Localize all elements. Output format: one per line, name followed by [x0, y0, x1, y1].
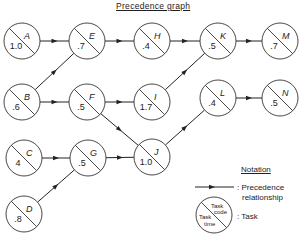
arrow-icon — [246, 96, 252, 100]
legend-precedence-arrow-icon — [195, 185, 234, 189]
task-node-J: J1.0 — [134, 139, 170, 175]
arrow-icon — [52, 39, 58, 43]
edge-A-E — [40, 39, 69, 43]
edge-B-E — [35, 53, 74, 89]
task-node-G: G.5 — [70, 140, 106, 176]
task-time: 4 — [15, 158, 20, 168]
task-time: .4 — [208, 98, 216, 108]
edge-C-G — [42, 156, 70, 160]
task-node-A: A1.0 — [4, 23, 40, 59]
arrow-icon — [182, 39, 188, 43]
legend-precedence-line2: relationship — [237, 193, 284, 203]
task-node-H: H.4 — [134, 23, 170, 59]
svg-text:code: code — [214, 209, 228, 215]
edge-F-I — [105, 100, 134, 104]
task-code: H — [154, 31, 161, 41]
task-node-K: K.5 — [200, 23, 236, 59]
task-time: .7 — [77, 41, 85, 51]
task-time: 1.0 — [10, 41, 23, 51]
task-code: F — [89, 92, 95, 102]
task-code: E — [89, 31, 96, 41]
edge-K-M — [236, 39, 262, 43]
edge-J-L — [165, 110, 204, 145]
graph-title: Precedence graph — [116, 1, 190, 11]
task-code: C — [26, 148, 33, 158]
task-time: .4 — [142, 41, 150, 51]
task-time: .5 — [208, 41, 216, 51]
arrow-icon — [117, 39, 123, 43]
arrow-icon — [52, 100, 58, 104]
arrow-icon — [117, 155, 123, 159]
svg-text:Task: Task — [199, 214, 212, 220]
task-time: .8 — [14, 214, 22, 224]
edges-layer — [35, 39, 262, 202]
task-time: .6 — [12, 102, 20, 112]
task-code: G — [90, 148, 97, 158]
legend-precedence-line1: : Precedence — [237, 183, 284, 193]
task-node-L: L.4 — [200, 80, 236, 116]
edge-H-K — [170, 39, 200, 43]
edge-E-H — [105, 39, 134, 43]
edge-L-N — [236, 96, 262, 100]
task-time: .7 — [270, 41, 278, 51]
task-time: 1.7 — [140, 102, 153, 112]
task-node-E: E.7 — [69, 23, 105, 59]
task-node-M: M.7 — [262, 23, 298, 59]
edge-F-J — [101, 114, 139, 146]
edge-G-J — [106, 155, 134, 159]
task-node-I: I1.7 — [134, 84, 170, 120]
task-code: K — [220, 31, 227, 41]
arrow-icon — [117, 100, 123, 104]
edge-B-F — [40, 100, 69, 104]
task-node-C: C4 — [6, 140, 42, 176]
arrow-icon — [246, 39, 252, 43]
task-time: .5 — [77, 102, 85, 112]
task-node-F: F.5 — [69, 84, 105, 120]
svg-text:time: time — [204, 221, 216, 227]
edge-D-G — [38, 170, 75, 202]
task-time: .5 — [78, 158, 86, 168]
task-node-N: N.5 — [262, 80, 298, 116]
task-time: 1.0 — [140, 157, 153, 167]
task-node-B: B.6 — [4, 84, 40, 120]
task-code: M — [282, 31, 290, 41]
task-code: A — [23, 31, 30, 41]
task-node-D: D.8 — [6, 196, 42, 232]
task-code: J — [153, 147, 159, 157]
task-code: N — [282, 88, 289, 98]
legend-precedence-label: : Precedence relationship — [237, 183, 284, 203]
legend-task-node-icon: Task code Task time — [196, 197, 232, 233]
task-code: L — [220, 88, 225, 98]
edge-I-K — [165, 53, 205, 90]
task-time: .5 — [270, 98, 278, 108]
task-code: B — [24, 92, 30, 102]
legend-title: Notation — [241, 165, 271, 174]
task-code: D — [26, 204, 33, 214]
legend-task-label: : Task — [237, 212, 258, 221]
arrow-icon — [53, 156, 59, 160]
